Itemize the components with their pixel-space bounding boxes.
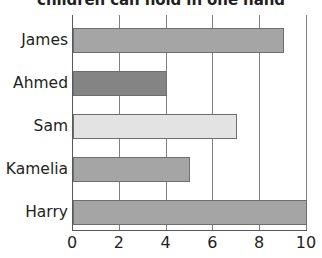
x-tick-label-6: 6	[192, 233, 232, 252]
y-axis-label-harry: Harry	[0, 203, 68, 221]
y-axis-label-james: James	[0, 31, 68, 49]
x-tick-label-4: 4	[146, 233, 186, 252]
bar-harry	[73, 200, 307, 225]
bar-sam	[73, 114, 237, 139]
bar-ahmed	[73, 71, 167, 96]
x-tick-label-0: 0	[52, 233, 92, 252]
x-tick-label-10: 10	[286, 233, 322, 252]
y-axis-label-ahmed: Ahmed	[0, 74, 68, 92]
bar-james	[73, 28, 284, 53]
x-tick-label-8: 8	[239, 233, 279, 252]
bar-chart: children can hold in one hand JamesAhmed…	[0, 0, 322, 258]
y-axis-label-kamelia: Kamelia	[0, 160, 68, 178]
chart-title-clip: children can hold in one hand	[0, 0, 322, 12]
bar-kamelia	[73, 157, 190, 182]
gridline-x-10	[306, 15, 307, 230]
plot-area	[72, 15, 306, 230]
y-axis-label-sam: Sam	[0, 117, 68, 135]
x-tick-label-2: 2	[99, 233, 139, 252]
x-axis-line	[72, 230, 307, 231]
chart-title: children can hold in one hand	[0, 0, 322, 9]
